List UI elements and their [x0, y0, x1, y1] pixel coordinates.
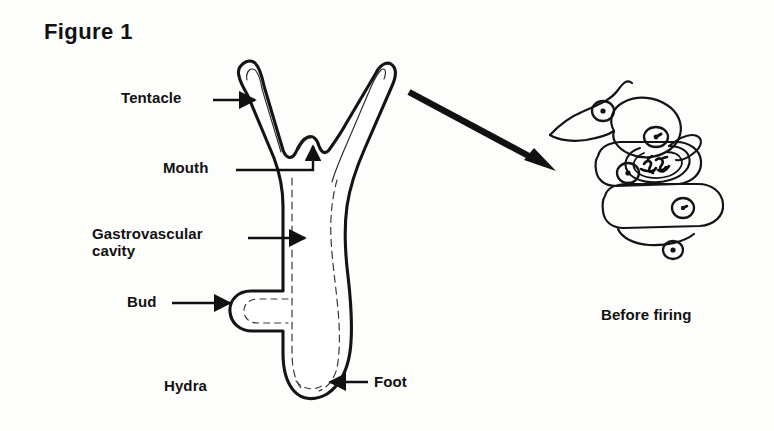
detail-cell-upper: [611, 98, 681, 158]
label-foot: Foot: [374, 374, 407, 391]
detail-cell-top-left-base: [550, 131, 614, 141]
nematocyst-coiled-thread: [641, 156, 669, 173]
caption-before-firing: Before firing: [601, 307, 691, 324]
label-bud: Bud: [127, 294, 156, 311]
figure-title: Figure 1: [44, 20, 133, 45]
label-mouth: Mouth: [163, 160, 208, 177]
detail-cell-middle: [596, 142, 701, 186]
label-tentacle: Tentacle: [121, 90, 182, 107]
figure-canvas: Figure 1 Tentacle Mouth Gastrovascular c…: [0, 0, 774, 431]
hydra-outer-wall: [230, 61, 395, 399]
label-hydra: Hydra: [164, 378, 207, 395]
detail-cell-lower: [603, 184, 723, 228]
hydra-organism: [230, 61, 395, 399]
label-gastrovascular-cavity: Gastrovascular cavity: [92, 226, 203, 260]
nematocyst-detail: [550, 81, 723, 259]
figure-artwork: [0, 0, 774, 431]
magnification-arrow: [409, 92, 556, 171]
detail-cell-top-left: [550, 81, 632, 135]
detail-cell-bottom: [618, 229, 694, 245]
